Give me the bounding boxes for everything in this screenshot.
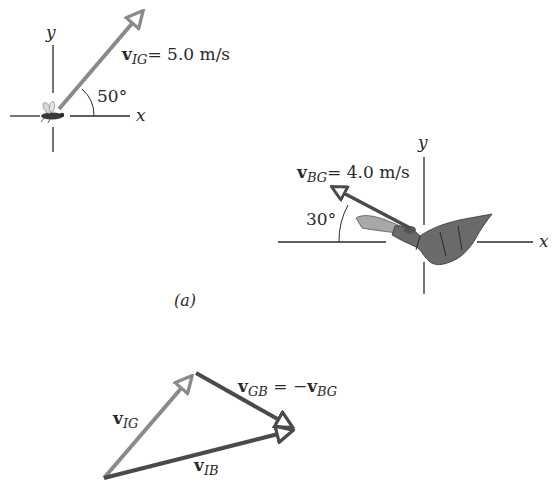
bat-frame: x y 30° vBG= 4.0 m/s xyxy=(278,132,549,294)
insect-x-label: x xyxy=(136,105,146,125)
bat-angle-arc xyxy=(339,205,348,242)
physics-figure: x y 50° vIG= 5.0 m/s x y 30° xyxy=(0,0,558,482)
triangle-vGB-label: vGB = −vBG xyxy=(237,376,337,399)
insect-frame: x y 50° vIG= 5.0 m/s xyxy=(10,13,230,152)
vBG-label: vBG= 4.0 m/s xyxy=(296,162,410,185)
insect-angle-arc xyxy=(82,89,94,116)
panel-label: (a) xyxy=(174,291,196,310)
vIG-label: vIG= 5.0 m/s xyxy=(121,44,230,67)
bat-x-label: x xyxy=(539,231,549,251)
bat-angle-label: 30° xyxy=(306,209,336,229)
triangle-vIG-arrow xyxy=(104,378,190,478)
vector-triangle: vIG vGB = −vBG vIB xyxy=(104,373,337,478)
triangle-vIB-label: vIB xyxy=(193,455,219,478)
insect-y-label: y xyxy=(45,22,56,42)
insect-angle-label: 50° xyxy=(97,86,127,106)
triangle-vIG-label: vIG xyxy=(112,408,138,431)
bat-y-label: y xyxy=(417,132,428,152)
